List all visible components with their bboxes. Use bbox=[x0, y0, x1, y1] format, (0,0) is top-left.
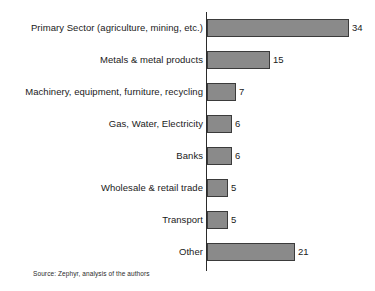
chart-row: Other21 bbox=[0, 236, 375, 268]
bar bbox=[207, 19, 349, 37]
bar-value-label: 6 bbox=[232, 147, 240, 165]
chart-row: Gas, Water, Electricity6 bbox=[0, 108, 375, 140]
bar bbox=[207, 115, 232, 133]
bar-value-label: 34 bbox=[349, 19, 363, 37]
category-label: Other bbox=[179, 236, 203, 268]
bar bbox=[207, 211, 228, 229]
category-label: Wholesale & retail trade bbox=[101, 172, 203, 204]
category-label: Machinery, equipment, furniture, recycli… bbox=[25, 76, 203, 108]
chart-row: Banks6 bbox=[0, 140, 375, 172]
chart-row: Wholesale & retail trade5 bbox=[0, 172, 375, 204]
category-label: Transport bbox=[162, 204, 203, 236]
bar-value-label: 15 bbox=[270, 51, 284, 69]
chart-row: Primary Sector (agriculture, mining, etc… bbox=[0, 12, 375, 44]
bar bbox=[207, 83, 236, 101]
category-label: Primary Sector (agriculture, mining, etc… bbox=[31, 12, 203, 44]
bar bbox=[207, 243, 295, 261]
bar-value-label: 5 bbox=[228, 211, 236, 229]
category-label: Gas, Water, Electricity bbox=[109, 108, 203, 140]
bar-chart: Primary Sector (agriculture, mining, etc… bbox=[0, 0, 375, 291]
bar bbox=[207, 147, 232, 165]
bar bbox=[207, 179, 228, 197]
bar bbox=[207, 51, 270, 69]
chart-row: Transport5 bbox=[0, 204, 375, 236]
bar-value-label: 6 bbox=[232, 115, 240, 133]
bar-value-label: 5 bbox=[228, 179, 236, 197]
chart-row: Metals & metal products15 bbox=[0, 44, 375, 76]
category-label: Banks bbox=[176, 140, 203, 172]
category-axis-line bbox=[206, 12, 207, 271]
category-label: Metals & metal products bbox=[100, 44, 203, 76]
plot-area: Primary Sector (agriculture, mining, etc… bbox=[0, 0, 375, 291]
source-note: Source: Zephyr, analysis of the authors bbox=[33, 270, 150, 277]
bar-value-label: 7 bbox=[236, 83, 244, 101]
chart-row: Machinery, equipment, furniture, recycli… bbox=[0, 76, 375, 108]
bar-value-label: 21 bbox=[295, 243, 309, 261]
